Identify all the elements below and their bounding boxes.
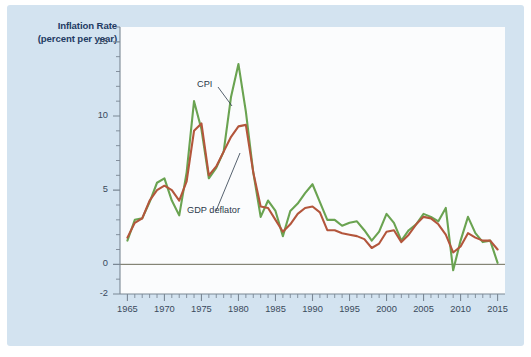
x-tick-label-1975: 1975: [184, 304, 218, 314]
x-tick-label-2010: 2010: [444, 304, 478, 314]
annotation-leader-lines: [216, 87, 240, 211]
axis-ticks-group: [113, 27, 498, 301]
y-tick-label-0: 0: [82, 258, 108, 268]
x-tick-label-1985: 1985: [258, 304, 292, 314]
cpi-leader-line: [218, 87, 232, 106]
x-tick-label-2000: 2000: [370, 304, 404, 314]
figure-panel: Inflation Rate (percent per year) -20510…: [7, 5, 524, 346]
x-tick-label-1990: 1990: [296, 304, 330, 314]
x-tick-label-1965: 1965: [110, 304, 144, 314]
series-line-cpi: [127, 64, 497, 270]
x-tick-label-2005: 2005: [407, 304, 441, 314]
y-tick-label-10: 10: [82, 110, 108, 120]
x-tick-label-1980: 1980: [221, 304, 255, 314]
y-tick-label-15: 15: [82, 36, 108, 46]
x-tick-label-1970: 1970: [147, 304, 181, 314]
y-tick-label-5: 5: [82, 184, 108, 194]
x-tick-label-1995: 1995: [333, 304, 367, 314]
series-lines-group: [127, 64, 497, 270]
gdp-deflator-annotation-label: GDP deflator: [187, 205, 240, 215]
cpi-annotation-label: CPI: [197, 79, 212, 89]
y-tick-label--2: -2: [82, 288, 108, 298]
x-tick-label-2015: 2015: [481, 304, 515, 314]
